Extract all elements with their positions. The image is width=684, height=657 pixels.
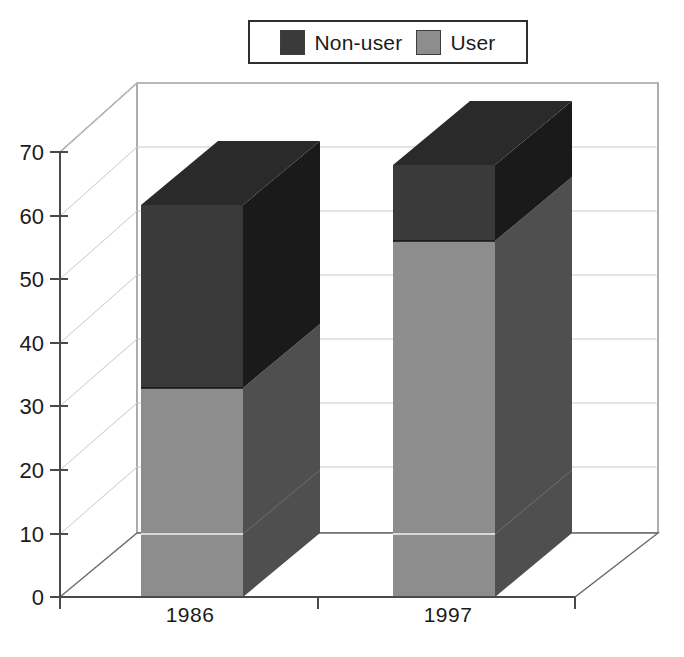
x-tick-label-1986: 1986 bbox=[166, 603, 215, 626]
y-tick-label-50: 50 bbox=[20, 267, 44, 292]
y-axis-labels: 70 60 50 40 30 20 10 0 bbox=[20, 140, 44, 610]
x-axis bbox=[60, 597, 575, 609]
y-tick-label-70: 70 bbox=[20, 140, 44, 165]
y-tick-label-10: 10 bbox=[20, 522, 44, 547]
y-tick-label-0: 0 bbox=[32, 585, 44, 610]
y-tick-label-40: 40 bbox=[20, 331, 44, 356]
chart-plot-area: 70 60 50 40 30 20 10 0 bbox=[0, 0, 684, 657]
chart-root: Non-user User bbox=[0, 0, 684, 657]
bar-group-1997 bbox=[393, 101, 572, 597]
bar-group-1986 bbox=[141, 141, 320, 597]
y-tick-label-20: 20 bbox=[20, 458, 44, 483]
x-tick-label-1997: 1997 bbox=[424, 603, 473, 626]
y-tick-label-30: 30 bbox=[20, 394, 44, 419]
y-tick-label-60: 60 bbox=[20, 204, 44, 229]
